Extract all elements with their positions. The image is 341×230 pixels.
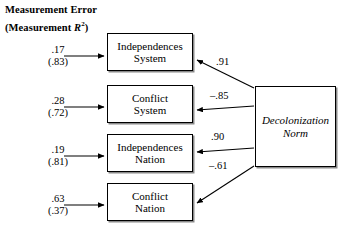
error-value: .63	[38, 193, 78, 205]
error-value: .28	[38, 95, 78, 107]
box-independences-system: Independences System	[107, 33, 193, 71]
error-label-conflict-system: .28 (.72)	[38, 95, 78, 119]
diagram-title-line2: (Measurement R2)	[5, 20, 88, 33]
arrow-path-conflict-nation	[197, 166, 254, 203]
r2-value: (.37)	[38, 205, 78, 217]
path-label-independences-system: .91	[216, 56, 229, 67]
latent-label-line1: Decolonization	[262, 114, 329, 126]
latent-label-line2: Norm	[283, 127, 308, 139]
path-label-conflict-nation: –.61	[209, 160, 227, 171]
diagram-title-line1: Measurement Error	[5, 4, 97, 15]
error-label-conflict-nation: .63 (.37)	[38, 193, 78, 217]
r2-value: (.81)	[38, 156, 78, 168]
path-diagram: Measurement Error (Measurement R2) .17 (…	[0, 0, 341, 230]
box-label-line2: System	[132, 104, 168, 117]
error-label-independences-system: .17 (.83)	[38, 44, 78, 68]
error-value: .17	[38, 44, 78, 56]
box-label-line2: Nation	[117, 153, 182, 166]
box-conflict-system: Conflict System	[107, 85, 193, 123]
box-independences-nation: Independences Nation	[107, 134, 193, 172]
title-suffix: )	[85, 22, 89, 33]
arrow-path-conflict-system	[197, 106, 254, 110]
r2-value: (.83)	[38, 56, 78, 68]
title-prefix: (Measurement	[5, 22, 74, 33]
arrow-path-independences-nation	[197, 148, 254, 152]
r2-value: (.72)	[38, 107, 78, 119]
box-label-line1: Independences	[117, 141, 182, 154]
path-label-independences-nation: .90	[211, 131, 224, 142]
box-label-line2: Nation	[132, 202, 168, 215]
box-label-line1: Conflict	[132, 190, 168, 203]
box-conflict-nation: Conflict Nation	[107, 183, 193, 221]
box-label-line1: Conflict	[132, 92, 168, 105]
box-label-line1: Independences	[117, 40, 182, 53]
path-label-conflict-system: –.85	[210, 90, 228, 101]
box-label-line2: System	[117, 52, 182, 65]
box-decolonization-norm: Decolonization Norm	[255, 86, 336, 167]
error-label-independences-nation: .19 (.81)	[38, 144, 78, 168]
error-value: .19	[38, 144, 78, 156]
